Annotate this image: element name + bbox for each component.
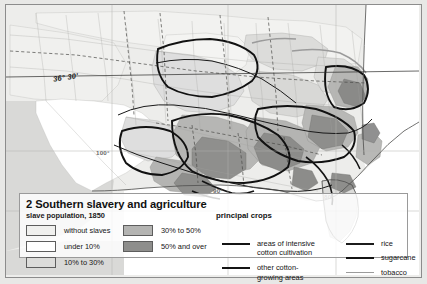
legend-item-other-cotton[interactable]: other cotton- growing areas	[222, 263, 315, 281]
legend-item-50-and-over[interactable]: 50% and over	[123, 241, 207, 254]
longitude-label-100: 100°	[96, 149, 110, 156]
legend-item-without-slaves[interactable]: without slaves	[26, 225, 110, 238]
line-swatch-sugarcane	[346, 253, 374, 262]
legend-item-under-10[interactable]: under 10%	[26, 241, 110, 254]
legend-label-other-cotton: other cotton- growing areas	[257, 263, 303, 281]
legend-label-intensive-cotton-line-1: areas of intensive	[257, 239, 315, 248]
legend-label-other-cotton-line-2: growing areas	[257, 273, 303, 282]
map-figure: 36° 30' 100° 90° 80° Atlantic Ocean 2 So…	[0, 0, 427, 284]
legend-crops-column-a: areas of intensive cotton cultivation ot…	[222, 239, 315, 284]
map-legend: 2 Southern slavery and agriculture slave…	[19, 193, 408, 258]
legend-item-tobacco[interactable]: tobacco	[346, 268, 416, 277]
legend-label-under-10: under 10%	[64, 241, 100, 252]
legend-population-column-a: without slaves under 10% 10% to 30%	[26, 225, 110, 273]
legend-crops-column-b: rice sugarcane tobacco	[346, 239, 416, 282]
legend-label-tobacco: tobacco	[381, 268, 407, 277]
swatch-30-to-50	[123, 225, 153, 236]
crops-heading: principal crops	[216, 211, 272, 220]
legend-label-rice: rice	[381, 239, 393, 248]
legend-population-column-b: 30% to 50% 50% and over	[123, 225, 207, 257]
line-swatch-rice	[346, 239, 374, 248]
legend-label-10-to-30: 10% to 30%	[64, 257, 104, 268]
legend-item-10-to-30[interactable]: 10% to 30%	[26, 257, 110, 270]
legend-label-50-and-over: 50% and over	[161, 241, 207, 252]
legend-label-other-cotton-line-1: other cotton-	[257, 263, 299, 272]
swatch-under-10	[26, 241, 56, 252]
line-swatch-tobacco	[346, 268, 374, 277]
legend-item-30-to-50[interactable]: 30% to 50%	[123, 225, 207, 238]
legend-label-without-slaves: without slaves	[64, 225, 110, 236]
swatch-50-and-over	[123, 241, 153, 252]
swatch-without-slaves	[26, 225, 56, 236]
legend-label-30-to-50: 30% to 50%	[161, 225, 201, 236]
legend-label-intensive-cotton: areas of intensive cotton cultivation	[257, 239, 315, 257]
legend-label-intensive-cotton-line-2: cotton cultivation	[257, 248, 312, 257]
legend-item-intensive-cotton[interactable]: areas of intensive cotton cultivation	[222, 239, 315, 257]
legend-title: 2 Southern slavery and agriculture	[26, 198, 407, 210]
legend-item-sugarcane[interactable]: sugarcane	[346, 253, 416, 262]
line-swatch-intensive-cotton	[222, 239, 250, 248]
swatch-10-to-30	[26, 257, 56, 268]
line-swatch-other-cotton	[222, 263, 250, 272]
legend-item-rice[interactable]: rice	[346, 239, 416, 248]
legend-label-sugarcane: sugarcane	[381, 253, 416, 262]
